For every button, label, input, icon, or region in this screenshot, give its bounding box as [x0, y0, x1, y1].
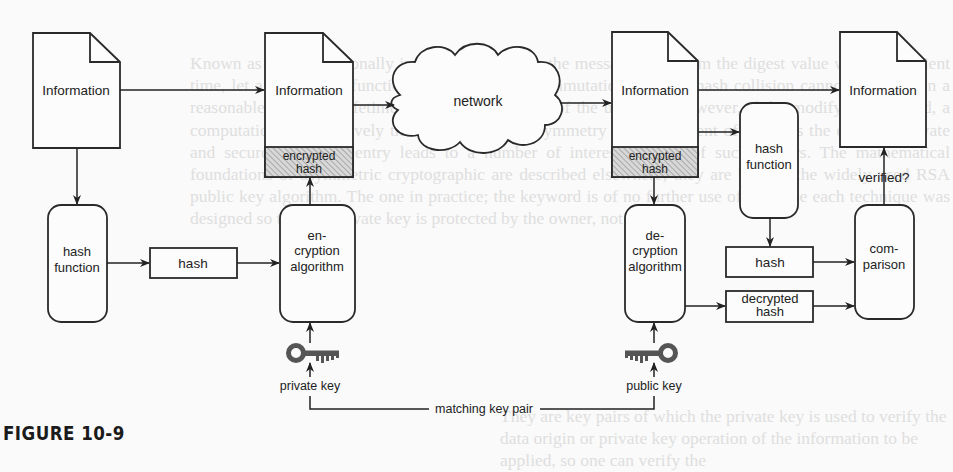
- received-attachment-label-2: hash: [642, 162, 668, 176]
- decryption-algorithm-label: algorithm: [628, 259, 681, 274]
- comparison-label: parison: [863, 257, 906, 272]
- decryption-algorithm-label: de-: [646, 228, 665, 243]
- received-document-label: Information: [621, 83, 689, 98]
- private-key-icon: [289, 346, 340, 364]
- encryption-algorithm-label: algorithm: [290, 259, 343, 274]
- received-attachment-label-1: encrypted: [629, 149, 682, 163]
- verified-label: verified?: [858, 170, 909, 185]
- network-label: network: [453, 93, 503, 109]
- hash-function-sender-label: function: [54, 260, 100, 275]
- hash-function-receiver-label: function: [746, 157, 792, 172]
- public-key-icon: [625, 346, 676, 364]
- hash-sender-label: hash: [178, 256, 207, 271]
- figure-caption: FIGURE 10-9: [3, 422, 125, 444]
- matching-key-pair-label: matching key pair: [435, 402, 533, 416]
- hash-receiver-label: hash: [755, 255, 784, 270]
- hash-function-receiver-label: hash: [755, 141, 783, 156]
- decrypted-hash-label: hash: [756, 304, 784, 319]
- private-key-label: private key: [280, 379, 341, 393]
- signed-attachment-label-2: hash: [296, 162, 322, 176]
- public-key-label: public key: [626, 379, 682, 393]
- signed-document-label: Information: [275, 83, 343, 98]
- decryption-algorithm-label: cryption: [632, 243, 678, 258]
- signed-attachment-label-1: encrypted: [283, 149, 336, 163]
- comparison-label: com-: [870, 241, 899, 256]
- encryption-algorithm-label: en-: [308, 228, 327, 243]
- verified-document-label: Information: [849, 83, 917, 98]
- encryption-algorithm-label: cryption: [294, 243, 340, 258]
- hash-function-sender-label: hash: [63, 244, 91, 259]
- source-document-label: Information: [42, 83, 110, 98]
